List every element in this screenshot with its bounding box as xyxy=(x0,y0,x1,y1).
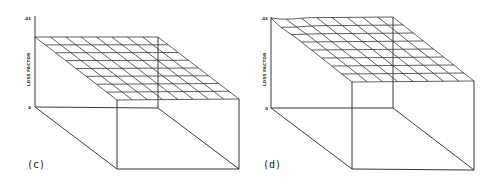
panel-label: (d) xyxy=(263,159,281,170)
panel-d: .01 0 LOSS FACTOR (d) xyxy=(261,16,474,170)
box-edge xyxy=(271,108,352,169)
axis-label: LOSS FACTOR xyxy=(26,52,31,86)
panel-label: (c) xyxy=(27,159,45,170)
box-edge xyxy=(35,107,158,108)
tick-bottom: 0 xyxy=(265,106,268,111)
panel-c: .01 0 LOSS FACTOR (c) xyxy=(24,16,239,170)
box-edge xyxy=(352,169,474,170)
box-edge xyxy=(35,107,117,169)
surface-grid xyxy=(271,17,474,82)
surface-grid xyxy=(35,37,239,100)
tick-top: .01 xyxy=(261,16,268,21)
tick-top: .01 xyxy=(24,16,31,21)
box-edge xyxy=(158,108,239,169)
axis-label: LOSS FACTOR xyxy=(262,52,267,86)
figure-canvas: .01 0 LOSS FACTOR (c) .01 0 LOSS FACTOR … xyxy=(0,0,499,184)
box-edge xyxy=(393,108,474,170)
tick-bottom: 0 xyxy=(28,105,31,110)
